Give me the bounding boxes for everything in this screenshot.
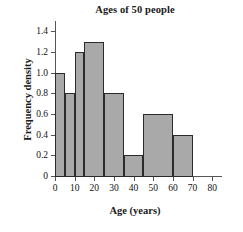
x-tick-label: 10 bbox=[70, 183, 80, 193]
x-tick-label: 40 bbox=[129, 183, 139, 193]
histogram-bar bbox=[55, 73, 65, 177]
histogram-bar bbox=[104, 93, 124, 177]
histogram-bar bbox=[65, 93, 75, 177]
x-tick-label: 60 bbox=[168, 183, 178, 193]
x-tick-mark bbox=[212, 176, 213, 181]
chart-title: Ages of 50 people bbox=[60, 4, 210, 15]
histogram-bar bbox=[143, 114, 172, 177]
y-tick-label: 0.4 bbox=[36, 130, 48, 140]
plot-area: 00.20.40.60.81.01.21.4 01020304050607080 bbox=[55, 21, 222, 176]
y-tick-label: 1.4 bbox=[36, 26, 48, 36]
x-tick-label: 0 bbox=[53, 183, 58, 193]
y-tick-label: 0.8 bbox=[36, 88, 48, 98]
y-tick-label: 1.2 bbox=[36, 47, 48, 57]
y-tick-label: 0 bbox=[43, 171, 48, 181]
x-tick-label: 30 bbox=[109, 183, 119, 193]
x-tick-label: 20 bbox=[90, 183, 100, 193]
y-tick-label: 1.0 bbox=[36, 68, 48, 78]
histogram-figure: Ages of 50 people Frequency density 00.2… bbox=[0, 0, 243, 232]
histogram-bar bbox=[173, 135, 193, 177]
x-axis-label: Age (years) bbox=[45, 205, 225, 216]
histogram-bar bbox=[124, 155, 144, 177]
y-axis-label: Frequency density bbox=[22, 20, 33, 180]
x-tick-label: 80 bbox=[207, 183, 217, 193]
x-tick-mark bbox=[193, 176, 194, 181]
x-tick-label: 50 bbox=[148, 183, 158, 193]
y-tick-mark bbox=[51, 52, 56, 53]
histogram-bar bbox=[84, 42, 104, 177]
histogram-bar bbox=[75, 52, 85, 177]
y-tick-label: 0.6 bbox=[36, 109, 48, 119]
y-tick-label: 0.2 bbox=[36, 150, 48, 160]
x-tick-label: 70 bbox=[188, 183, 198, 193]
y-tick-mark bbox=[51, 31, 56, 32]
